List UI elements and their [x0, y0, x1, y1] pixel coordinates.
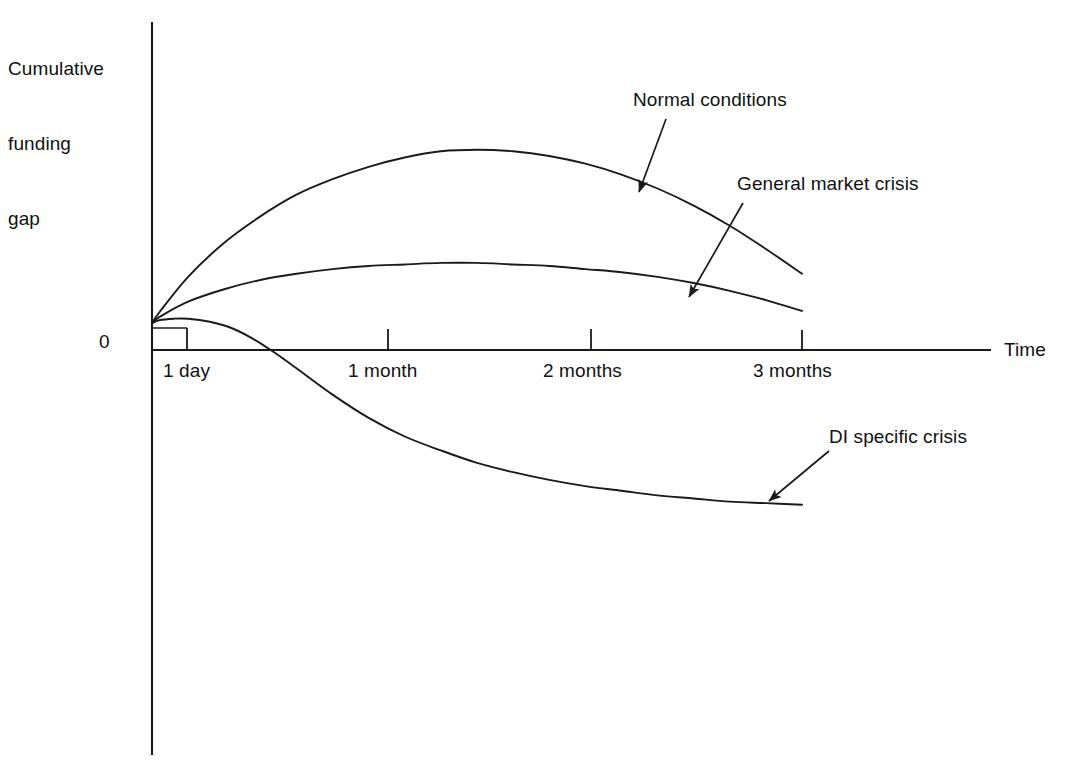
- y-axis-title-line-3: gap: [8, 206, 104, 231]
- y-axis-zero-label: 0: [99, 330, 110, 354]
- annotation-arrow-di-specific-crisis: [769, 451, 829, 501]
- x-tick-label-3-months: 3 months: [753, 359, 832, 383]
- series-line-di-specific-crisis: [152, 318, 802, 504]
- annotation-label-di-specific-crisis: DI specific crisis: [829, 425, 967, 449]
- annotation-arrow-normal-conditions: [639, 119, 666, 192]
- annotation-label-normal-conditions: Normal conditions: [633, 88, 787, 112]
- x-tick-label-2-months: 2 months: [543, 359, 622, 383]
- y-axis-title: Cumulative funding gap: [8, 6, 104, 281]
- chart-figure: Cumulative funding gap 0 Time 1 day 1 mo…: [0, 0, 1071, 777]
- x-tick-label-1-day: 1 day: [163, 359, 210, 383]
- x-tick-label-1-month: 1 month: [348, 359, 417, 383]
- series-line-general-market-crisis: [152, 263, 802, 324]
- x-axis-title: Time: [1004, 338, 1046, 362]
- y-axis-title-line-2: funding: [8, 131, 104, 156]
- series-line-normal-conditions: [152, 150, 802, 324]
- chart-plot-area: [0, 0, 1071, 777]
- annotation-label-general-market-crisis: General market crisis: [737, 172, 919, 196]
- y-axis-title-line-1: Cumulative: [8, 56, 104, 81]
